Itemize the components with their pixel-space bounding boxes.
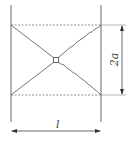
diagonal-bottom-left bbox=[11, 62, 54, 95]
diagonal-top-right bbox=[58, 25, 101, 58]
width-dimension-label: l bbox=[56, 119, 60, 130]
center-node-square bbox=[54, 58, 59, 63]
diagonal-top-left bbox=[11, 25, 54, 58]
diagram-canvas bbox=[0, 0, 135, 141]
diagonal-bottom-right bbox=[58, 62, 101, 95]
height-dimension-label: 2a bbox=[109, 53, 120, 67]
